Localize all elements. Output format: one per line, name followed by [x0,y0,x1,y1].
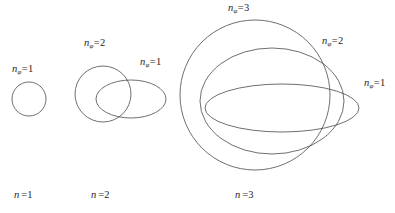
orbital-curves-canvas [0,0,395,213]
label-n3-phi3-num: 3 [244,2,249,13]
label-n2-phi2-num: 2 [100,37,105,48]
label-n2-phi1: nφ=1 [140,57,161,69]
orbit-group-n1 [12,82,46,116]
orbit-circle-n2-phi2 [75,66,131,122]
label-n1-phi1: nφ=1 [12,64,33,76]
shell-label-n3-num: 3 [248,189,253,200]
orbital-diagram-figure: nφ=1 nφ=2 nφ=1 nφ=3 nφ=2 nφ=1 n=1 n=2 n=… [0,0,395,213]
shell-label-n3: n=3 [235,190,253,201]
label-n1-phi1-num: 1 [28,63,33,74]
label-n3-phi2: nφ=2 [322,36,343,48]
orbit-circle-n1-phi1 [12,82,46,116]
label-n2-phi2: nφ=2 [84,38,105,50]
shell-label-n2: n=2 [91,190,109,201]
shell-label-n1-num: 1 [27,189,32,200]
label-n2-phi1-num: 1 [156,56,161,67]
orbit-ellipse-n3-phi1 [205,84,359,132]
orbit-ellipse-n3-phi2 [200,48,344,154]
shell-label-n2-num: 2 [104,189,109,200]
label-n3-phi3: nφ=3 [228,3,249,15]
label-n3-phi2-num: 2 [338,35,343,46]
label-n3-phi1-num: 1 [380,77,385,88]
orbit-ellipse-n2-phi1 [96,80,166,118]
label-n3-phi1: nφ=1 [364,78,385,90]
shell-label-n1: n=1 [14,190,32,201]
orbit-group-n2 [75,66,166,122]
